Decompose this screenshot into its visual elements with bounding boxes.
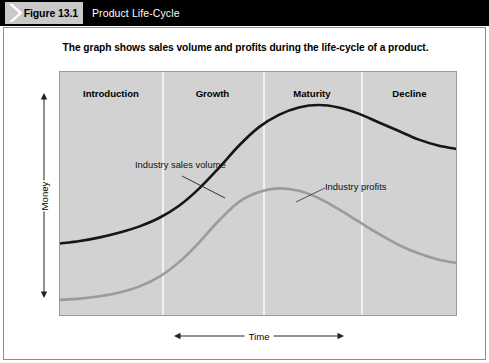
- x-axis-label: Time: [245, 331, 274, 342]
- curves-layer: [60, 72, 457, 316]
- figure-header-bar: Figure 13.1 Product Life-Cycle: [0, 0, 489, 26]
- figure-number-label: Figure 13.1: [24, 7, 78, 19]
- y-axis-label: Money: [37, 180, 52, 211]
- figure-number-badge: Figure 13.1: [5, 2, 83, 24]
- curve-industry-sales-volume: [60, 105, 457, 243]
- industry-sales-volume-label: Industry sales volume: [135, 159, 226, 171]
- sales-leader-line: [182, 176, 225, 198]
- industry-profits-label: Industry profits: [325, 181, 386, 193]
- plot-region: IntroductionGrowthMaturityDecline Indust…: [59, 71, 457, 316]
- y-axis-money: Money: [31, 93, 57, 298]
- product-life-cycle-chart: Money IntroductionGrowthMaturityDecline …: [4, 28, 487, 359]
- figure-body-panel: The graph shows sales volume and profits…: [3, 27, 486, 360]
- chevron-right-icon: [8, 4, 30, 22]
- figure-title: Product Life-Cycle: [92, 0, 180, 26]
- x-axis-time: Time: [174, 326, 344, 346]
- curve-industry-profits: [60, 188, 457, 299]
